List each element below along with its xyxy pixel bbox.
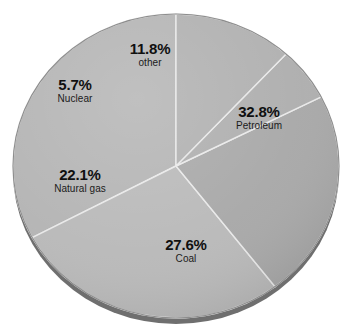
- slice-name-other: other: [101, 58, 199, 68]
- slice-name-petroleum: Petroleum: [206, 121, 312, 131]
- slice-percent-coal: 27.6%: [133, 237, 239, 253]
- slice-percent-petroleum: 32.8%: [206, 104, 312, 120]
- slice-label-natural-gas: 22.1% Natural gas: [21, 167, 139, 194]
- pie-chart: 32.8% Petroleum 27.6% Coal 22.1% Natural…: [0, 0, 358, 331]
- slice-name-natural-gas: Natural gas: [21, 184, 139, 194]
- slice-label-nuclear: 5.7% Nuclear: [26, 77, 124, 104]
- slice-label-other: 11.8% other: [101, 41, 199, 68]
- slice-percent-nuclear: 5.7%: [26, 77, 124, 93]
- slice-name-nuclear: Nuclear: [26, 94, 124, 104]
- slice-percent-natural-gas: 22.1%: [21, 167, 139, 183]
- slice-label-coal: 27.6% Coal: [133, 237, 239, 264]
- slice-percent-other: 11.8%: [101, 41, 199, 57]
- slice-name-coal: Coal: [133, 254, 239, 264]
- slice-label-petroleum: 32.8% Petroleum: [206, 104, 312, 131]
